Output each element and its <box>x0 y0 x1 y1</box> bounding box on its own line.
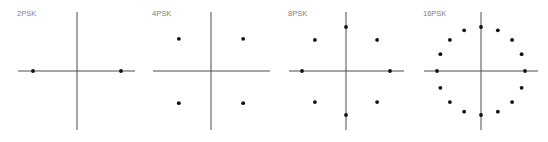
constellation-point <box>344 113 348 117</box>
constellation-point <box>496 110 500 114</box>
constellation-point <box>119 69 123 73</box>
constellation-point <box>479 25 483 29</box>
panel-label: 8PSK <box>288 9 307 18</box>
panel-label: 2PSK <box>17 9 36 18</box>
constellation-point <box>375 38 379 42</box>
constellation-point <box>344 25 348 29</box>
constellation-point <box>496 28 500 32</box>
constellation-point <box>462 110 466 114</box>
constellation-point <box>241 37 245 41</box>
constellation-point <box>520 86 524 90</box>
panel-4psk: 4PSK <box>152 9 270 130</box>
constellation-point <box>479 113 483 117</box>
constellation-point <box>313 100 317 104</box>
constellation-point <box>375 100 379 104</box>
panel-label: 4PSK <box>152 9 171 18</box>
constellation-point <box>462 28 466 32</box>
constellation-canvas: 2PSK 4PSK 8PSK 16PSK <box>0 0 548 142</box>
constellation-point <box>438 86 442 90</box>
constellation-point <box>31 69 35 73</box>
constellation-point <box>510 38 514 42</box>
constellation-point <box>520 52 524 56</box>
constellation-point <box>438 52 442 56</box>
constellation-point <box>388 69 392 73</box>
constellation-point <box>523 69 527 73</box>
constellation-point <box>510 100 514 104</box>
panel-label: 16PSK <box>423 9 446 18</box>
panel-2psk: 2PSK <box>17 9 135 130</box>
panel-16psk: 16PSK <box>423 9 538 130</box>
constellation-point <box>177 101 181 105</box>
constellation-point <box>300 69 304 73</box>
constellation-point <box>435 69 439 73</box>
constellation-point <box>241 101 245 105</box>
constellation-point <box>313 38 317 42</box>
constellation-point <box>448 100 452 104</box>
constellation-point <box>177 37 181 41</box>
panel-8psk: 8PSK <box>288 9 404 130</box>
constellation-point <box>448 38 452 42</box>
